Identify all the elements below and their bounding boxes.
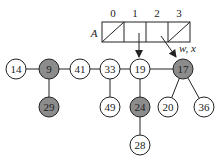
- svg-text:28: 28: [135, 139, 147, 151]
- node-9: 9: [39, 59, 59, 79]
- node-28: 28: [130, 135, 150, 155]
- diagram-svg: 0 1 2 3 A w, x 14 9 41 33 19 17 29 49 24…: [0, 0, 222, 168]
- svg-text:49: 49: [105, 101, 117, 113]
- svg-text:33: 33: [105, 63, 117, 75]
- pointer-label: w, x: [179, 42, 196, 54]
- nil-slash-cell-0: [102, 22, 124, 42]
- svg-text:17: 17: [178, 63, 190, 75]
- node-33: 33: [100, 59, 120, 79]
- array-index-1: 1: [132, 7, 138, 19]
- svg-text:29: 29: [44, 101, 56, 113]
- array-index-2: 2: [154, 7, 160, 19]
- svg-text:24: 24: [135, 101, 147, 113]
- array-A: [102, 22, 190, 42]
- svg-text:20: 20: [163, 101, 175, 113]
- array-index-3: 3: [176, 7, 182, 19]
- array-label: A: [90, 27, 98, 39]
- binomial-heap-diagram: 0 1 2 3 A w, x 14 9 41 33 19 17 29 49 24…: [0, 0, 222, 168]
- node-29: 29: [39, 97, 59, 117]
- svg-text:9: 9: [46, 63, 52, 75]
- node-14: 14: [6, 59, 26, 79]
- node-49: 49: [100, 97, 120, 117]
- svg-text:19: 19: [135, 63, 147, 75]
- svg-text:14: 14: [11, 63, 23, 75]
- node-41: 41: [70, 59, 90, 79]
- svg-text:36: 36: [199, 101, 211, 113]
- node-17: 17: [173, 59, 193, 79]
- nil-slash-cell-3: [168, 22, 190, 42]
- node-19: 19: [130, 59, 150, 79]
- node-36: 36: [194, 97, 214, 117]
- node-24: 24: [130, 97, 150, 117]
- array-index-0: 0: [110, 7, 116, 19]
- svg-text:41: 41: [75, 63, 86, 75]
- node-20: 20: [158, 97, 178, 117]
